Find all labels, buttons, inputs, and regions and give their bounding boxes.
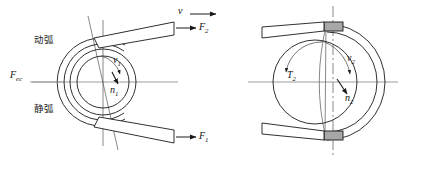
label-force-upper-subscript: 2 <box>205 27 208 34</box>
label-moving-arc: 动弧 <box>34 32 55 46</box>
left-upper-lever-arm <box>94 22 174 48</box>
label-force-lower-subscript: 1 <box>205 136 208 143</box>
label-rotation-right-subscript: 2 <box>350 98 353 105</box>
right-torque-arc-arrow <box>286 42 322 72</box>
label-force-ec-subscript: ec <box>16 75 22 82</box>
right-upper-contact-pad <box>324 22 343 31</box>
figure-canvas: 动弧 静弧 Fec F2 F1 v1 n1 v v2 T2 n2 <box>0 0 422 169</box>
left-lower-lever-arm <box>94 117 174 143</box>
right-upper-lever-arm <box>262 22 324 38</box>
label-velocity-left: v1 <box>113 54 121 67</box>
label-rotation-right: n2 <box>345 92 353 105</box>
right-lower-lever-arm <box>262 123 324 140</box>
label-torque-right-subscript: 2 <box>293 75 296 82</box>
label-static-arc: 静弧 <box>34 101 55 115</box>
right-tilted-line <box>325 22 326 138</box>
label-velocity-left-subscript: 1 <box>117 60 120 67</box>
label-rotation-left-subscript: 1 <box>115 90 118 97</box>
left-view-group <box>30 16 196 150</box>
label-force-ec: Fec <box>10 69 22 82</box>
label-rotation-left: n1 <box>110 84 118 97</box>
label-velocity-top: v <box>178 5 182 16</box>
label-velocity-right-subscript: 2 <box>351 58 354 65</box>
label-force-upper: F2 <box>199 21 209 34</box>
right-view-group <box>190 6 398 158</box>
right-velocity-arc-arrow <box>318 40 350 74</box>
schematic-drawing <box>0 0 422 169</box>
right-lower-contact-pad <box>324 131 343 140</box>
label-torque-right: T2 <box>287 69 296 82</box>
label-velocity-right: v2 <box>347 52 355 65</box>
label-velocity-top-symbol: v <box>178 5 182 16</box>
label-force-lower: F1 <box>199 130 209 143</box>
